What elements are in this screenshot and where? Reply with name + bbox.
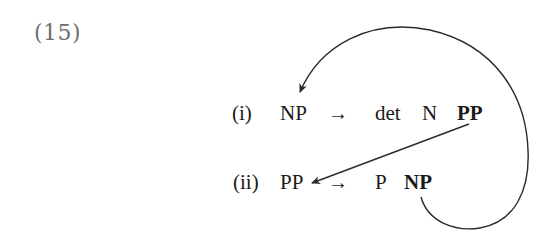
recursion-arrows bbox=[0, 0, 556, 243]
link-arrow-np bbox=[300, 27, 528, 229]
link-arrow-pp bbox=[312, 124, 469, 183]
